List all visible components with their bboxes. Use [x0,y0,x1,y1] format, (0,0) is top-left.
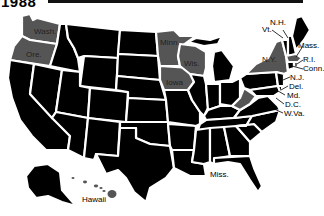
label-rhode-island: R.I. [303,56,315,64]
state-wyoming[interactable] [80,56,118,90]
label-new-york: N.Y. [262,56,277,64]
label-oregon: Ore. [26,51,42,59]
state-massachusetts[interactable] [286,54,302,62]
label-west-virginia: W.Va. [284,110,305,118]
label-connecticut: Conn. [303,65,324,73]
label-mississippi: Miss. [210,171,229,179]
state-north-dakota[interactable] [118,30,158,56]
label-massachusetts: Mass. [298,42,319,50]
label-hawaii: Hawaii [82,196,106,204]
label-maryland: Md. [287,92,300,100]
label-minnesota: Minn. [160,39,180,47]
label-new-hampshire: N.H. [270,19,286,27]
label-vermont: Vt. [262,26,272,34]
state-kansas[interactable] [126,98,168,122]
state-colorado[interactable] [88,88,128,122]
state-mississippi[interactable] [192,128,210,164]
label-dc: D.C. [285,101,301,109]
state-arkansas[interactable] [168,124,196,150]
label-delaware: Del. [289,83,303,91]
state-new-jersey[interactable] [276,72,284,86]
state-alaska[interactable] [26,164,76,206]
state-michigan-lower[interactable] [212,50,234,82]
label-new-jersey: N.J. [290,74,304,82]
label-wisconsin: Wis. [184,60,200,68]
label-washington: Wash. [34,28,56,36]
label-iowa: Iowa [166,79,183,87]
